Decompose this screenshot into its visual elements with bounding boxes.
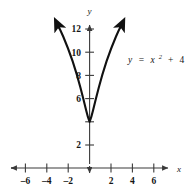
y-tick-label-12: 12 <box>72 24 82 34</box>
parabola-right-arrow <box>120 23 123 29</box>
x-tick-label--4: –4 <box>41 176 52 186</box>
equation-annotation: y = x 2 + 4 <box>127 45 184 66</box>
x-tick-label-6: 6 <box>151 176 156 186</box>
graph-figure: –6 –4 –2 2 4 6 x 2 6 8 10 12 y <box>0 0 189 191</box>
x-tick-label--6: –6 <box>20 176 31 186</box>
x-axis-label: x <box>176 164 181 174</box>
coordinate-plane: –6 –4 –2 2 4 6 x 2 6 8 10 12 y <box>0 0 189 191</box>
x-tick-label-4: 4 <box>130 176 135 186</box>
x-tick-label--2: –2 <box>62 176 73 186</box>
y-axis: 2 6 8 10 12 y <box>72 6 95 173</box>
equation-plus: + <box>168 55 173 65</box>
y-tick-label-10: 10 <box>72 48 82 58</box>
y-axis-label: y <box>87 6 92 16</box>
equation-constant: 4 <box>179 55 184 65</box>
parabola-left-arrow <box>57 23 60 29</box>
equation-base: x <box>150 55 156 65</box>
x-axis: –6 –4 –2 2 4 6 x <box>11 164 181 187</box>
equation-equals: = <box>139 55 144 65</box>
equation-exponent: 2 <box>159 53 163 60</box>
y-tick-label-6: 6 <box>76 94 81 104</box>
y-tick-label-2: 2 <box>76 140 81 150</box>
equation-lhs: y <box>127 55 133 65</box>
x-tick-label-2: 2 <box>109 176 114 186</box>
equation-text: y = x 2 + 4 <box>127 45 184 66</box>
